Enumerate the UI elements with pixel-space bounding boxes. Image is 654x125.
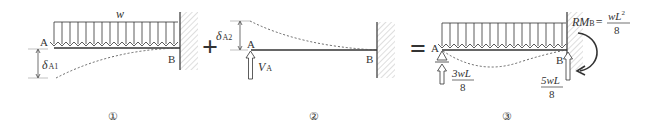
- reaction-arrow-a: [438, 64, 447, 84]
- moment-label: RMB=: [571, 15, 603, 29]
- panel-caption-2: ②: [309, 110, 319, 122]
- moment-denominator: 8: [614, 24, 620, 36]
- panel-1: w A B δA1 ①: [28, 7, 198, 122]
- reaction-b-denominator: 8: [549, 88, 555, 100]
- point-b-label: B: [168, 53, 175, 65]
- deflection-curve: [250, 21, 376, 50]
- deflection-curve: [443, 50, 566, 67]
- point-a-label: A: [40, 36, 48, 48]
- reaction-a-numerator: 3wL: [451, 67, 471, 79]
- load-label-w: w: [116, 7, 124, 21]
- deflection-curve: [56, 48, 178, 78]
- fixed-wall-hatch: [180, 12, 198, 70]
- panel-3: A B 3wL 8 5wL 8 RMB= wL2 8 ③: [431, 9, 630, 122]
- deflection-label: δA2: [216, 29, 232, 43]
- point-a-label: A: [247, 38, 255, 50]
- panel-caption-1: ①: [108, 110, 118, 122]
- moment-numerator: wL2: [608, 9, 625, 22]
- reaction-arrow-va: [246, 51, 255, 79]
- reaction-label: VA: [258, 60, 272, 74]
- equals-operator: =: [410, 33, 426, 64]
- distributed-load-arrows: [438, 23, 566, 48]
- point-b-label: B: [366, 53, 373, 65]
- reaction-a-denominator: 8: [460, 81, 466, 93]
- point-b-label: B: [556, 54, 563, 66]
- reaction-b-numerator: 5wL: [541, 74, 560, 86]
- point-a-label: A: [431, 42, 439, 54]
- panel-caption-3: ③: [502, 110, 512, 122]
- superposition-diagram: w A B δA1 ① + δA2 A B VA ② =: [0, 0, 654, 125]
- panel-2: δA2 A B VA ②: [216, 21, 395, 122]
- distributed-load-arrows: [50, 22, 178, 46]
- deflection-label: δA1: [42, 58, 58, 72]
- fixed-wall-hatch: [377, 22, 395, 78]
